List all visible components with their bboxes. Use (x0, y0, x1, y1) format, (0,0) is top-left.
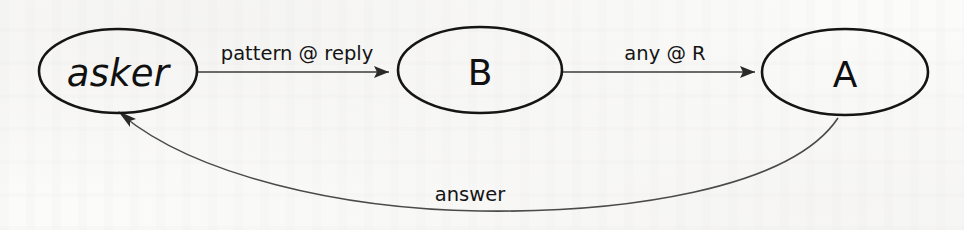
node-asker[interactable]: asker (39, 29, 197, 113)
node-a[interactable]: A (762, 29, 928, 115)
edge-label-any-r: any @ R (624, 42, 705, 65)
diagram-canvas: asker B A pattern @ reply any @ R answer (0, 0, 964, 230)
node-b-label: B (468, 52, 493, 93)
edge-label-answer: answer (435, 183, 506, 206)
node-b[interactable]: B (398, 27, 562, 113)
edge-label-pattern-reply: pattern @ reply (221, 42, 373, 65)
state-diagram: asker B A pattern @ reply any @ R answer (0, 0, 964, 230)
node-asker-label: asker (67, 52, 172, 95)
edge-asker-to-b[interactable] (196, 66, 389, 78)
node-a-label: A (833, 54, 858, 95)
edge-b-to-a[interactable] (563, 66, 755, 78)
